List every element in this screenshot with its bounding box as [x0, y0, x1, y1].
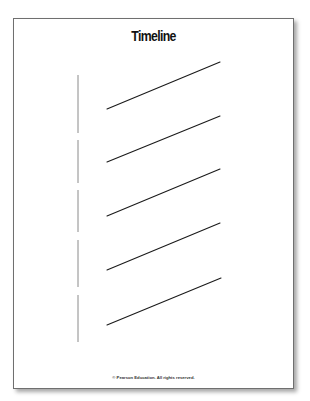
entry-line-1 — [107, 62, 220, 109]
entry-line-2 — [107, 116, 220, 162]
entry-line-5 — [107, 278, 221, 325]
timeline-entry-lines — [107, 62, 221, 325]
timeline-graphic — [0, 0, 310, 401]
entry-line-3 — [107, 169, 220, 216]
entry-line-4 — [107, 223, 220, 270]
